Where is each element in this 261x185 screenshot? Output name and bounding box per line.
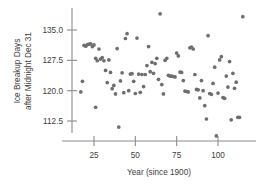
scatter-plot-figure: 112.5120.0127.5135.0 255075100 Year (sin…	[0, 0, 261, 185]
data-point	[211, 82, 215, 86]
data-point	[193, 73, 197, 77]
data-point	[143, 73, 147, 77]
data-point	[110, 87, 114, 91]
data-point	[152, 71, 156, 75]
data-point	[201, 89, 205, 93]
data-point	[181, 79, 185, 83]
data-point	[234, 80, 238, 84]
data-point	[104, 69, 108, 73]
data-point	[115, 47, 119, 51]
data-point	[81, 80, 85, 84]
y-axis-title-line2: after Midnight Dec 31	[24, 32, 33, 110]
data-point	[219, 55, 223, 59]
data-point	[213, 65, 217, 69]
data-point	[229, 118, 233, 122]
data-point	[147, 45, 151, 49]
data-point	[142, 85, 146, 89]
data-point	[160, 83, 164, 87]
data-point	[216, 91, 220, 95]
data-point	[79, 90, 83, 94]
data-point	[92, 43, 96, 47]
data-point	[109, 71, 113, 75]
data-point	[233, 86, 237, 90]
data-point	[107, 58, 111, 62]
data-point	[112, 84, 116, 88]
data-point	[238, 116, 242, 120]
x-tick-label: 25	[89, 151, 99, 160]
data-point	[198, 96, 202, 100]
data-point	[122, 91, 126, 95]
data-point	[176, 54, 180, 58]
data-point	[162, 92, 166, 96]
data-point	[196, 88, 200, 92]
data-point	[137, 72, 141, 76]
data-point	[133, 92, 137, 96]
data-point	[125, 32, 129, 36]
data-point	[231, 71, 235, 75]
data-point	[241, 15, 245, 19]
data-point	[148, 70, 152, 74]
data-point	[158, 12, 162, 16]
data-point	[120, 71, 124, 75]
x-tick-label: 75	[172, 151, 182, 160]
data-point	[191, 47, 195, 51]
data-point	[206, 34, 210, 38]
data-point	[124, 37, 128, 41]
data-point	[165, 56, 169, 60]
data-point	[228, 60, 232, 64]
data-point	[223, 97, 227, 101]
x-tick-label: 100	[211, 151, 225, 160]
data-point	[210, 92, 214, 96]
data-point	[119, 79, 123, 83]
x-axis-title: Year (since 1900)	[127, 168, 191, 177]
data-point	[200, 79, 204, 83]
data-point	[173, 75, 177, 79]
data-point	[97, 47, 101, 51]
data-point	[102, 59, 106, 63]
data-point	[186, 90, 190, 94]
y-tick-label: 112.5	[43, 117, 63, 126]
chart-canvas: 112.5120.0127.5135.0 255075100 Year (sin…	[0, 0, 261, 185]
x-axis-ticks: 255075100	[89, 136, 225, 160]
data-point	[95, 59, 99, 63]
y-tick-label: 127.5	[43, 56, 64, 65]
data-point	[224, 74, 228, 78]
data-point	[117, 125, 121, 129]
y-tick-label: 135.0	[43, 26, 64, 35]
data-point	[132, 80, 136, 84]
data-point	[205, 117, 209, 121]
data-point	[138, 90, 142, 94]
x-tick-label: 50	[131, 151, 141, 160]
data-point	[140, 73, 144, 77]
data-point	[130, 72, 134, 76]
y-tick-label: 120.0	[43, 87, 64, 96]
y-axis-title-line1: Ice Breakup Days	[13, 39, 22, 104]
data-point	[94, 105, 98, 109]
data-point	[226, 85, 230, 89]
data-point	[145, 64, 149, 68]
data-points-layer	[79, 12, 245, 138]
data-point	[180, 71, 184, 75]
data-point	[218, 58, 222, 62]
data-point	[203, 104, 207, 108]
data-point	[135, 36, 139, 40]
data-point	[105, 81, 109, 85]
data-point	[100, 56, 104, 60]
data-point	[153, 62, 157, 66]
data-point	[157, 77, 161, 81]
data-point	[127, 89, 131, 93]
data-point	[150, 61, 154, 65]
data-point	[114, 92, 118, 96]
data-point	[155, 56, 159, 60]
